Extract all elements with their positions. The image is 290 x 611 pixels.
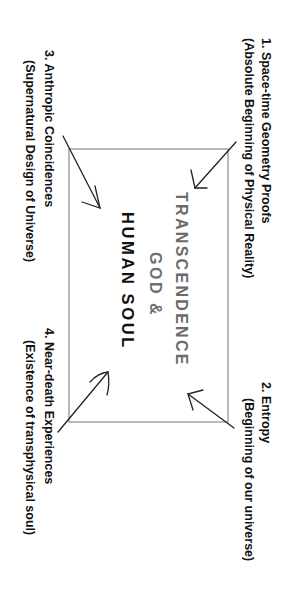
center-title-god: GOD & (147, 252, 163, 317)
diagram-canvas: 1. Space-time Geometry Proofs (Absolute … (0, 0, 290, 611)
node-2-title: 2. Entropy (260, 382, 273, 443)
center-title-transcendence: TRANSCENDENCE (173, 192, 189, 367)
center-title-human-soul: HUMAN SOUL (120, 212, 137, 350)
node-1-subtitle: (Absolute Beginning of Physical Reality) (243, 38, 256, 278)
node-2-subtitle: (Beginning of our universe) (243, 398, 256, 561)
node-4-subtitle: (Existence of transphysical soul) (24, 340, 37, 535)
node-4-title: 4. Near-death Experiences (43, 328, 56, 484)
arrow-4-icon (58, 372, 109, 432)
node-3-title: 3. Anthropic Coincidences (43, 50, 56, 207)
node-1-title: 1. Space-time Geometry Proofs (260, 38, 273, 223)
node-3-subtitle: (Supernatural Design of Universe) (24, 60, 37, 262)
